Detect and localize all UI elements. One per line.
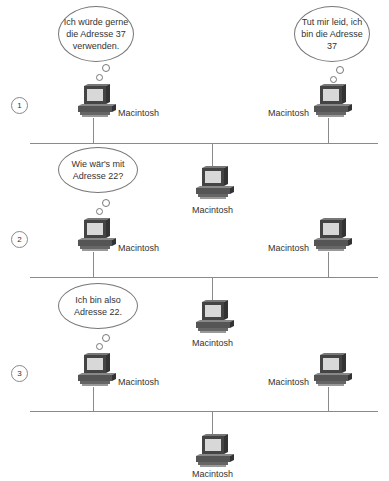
macintosh-computer-icon	[194, 166, 234, 202]
macintosh-computer-icon	[194, 434, 234, 470]
node-label: Macintosh	[118, 243, 159, 253]
thought-dot	[102, 334, 110, 342]
network-drop	[93, 118, 94, 143]
network-drop	[212, 411, 213, 436]
bubble-text: Tut mir leid, ich bin die Adresse 37	[295, 16, 369, 52]
macintosh-computer-icon	[76, 84, 116, 120]
network-drop	[328, 387, 329, 411]
macintosh-computer-icon	[312, 218, 352, 254]
macintosh-computer-icon	[76, 218, 116, 254]
network-drop	[93, 387, 94, 411]
node-label: Macintosh	[268, 108, 309, 118]
network-drop	[212, 143, 213, 168]
node-label: Macintosh	[268, 377, 309, 387]
node-label: Macintosh	[192, 205, 233, 215]
bubble-text: Ich würde gerne die Adresse 37 verwenden…	[59, 16, 133, 52]
thought-dot	[96, 343, 103, 350]
bubble-text: Ich bin also Adresse 22.	[59, 294, 137, 318]
macintosh-computer-icon	[76, 353, 116, 389]
macintosh-computer-icon	[194, 300, 234, 336]
thought-bubble-step2: Wie wär's mit Adresse 22?	[58, 147, 138, 193]
network-bus-1	[30, 143, 378, 144]
node-label: Macintosh	[118, 108, 159, 118]
network-bus-2	[30, 277, 378, 278]
thought-bubble-step3: Ich bin also Adresse 22.	[58, 283, 138, 329]
node-label: Macintosh	[192, 338, 233, 348]
thought-bubble-step1-right: Tut mir leid, ich bin die Adresse 37	[294, 6, 370, 62]
network-drop	[212, 277, 213, 302]
network-bus-3	[30, 411, 378, 412]
thought-dot	[102, 199, 110, 207]
thought-dot	[336, 66, 344, 74]
thought-dot	[102, 64, 110, 72]
network-drop	[328, 252, 329, 277]
thought-dot	[330, 76, 337, 83]
thought-bubble-step1-left: Ich würde gerne die Adresse 37 verwenden…	[58, 6, 134, 62]
node-label: Macintosh	[192, 469, 233, 479]
macintosh-computer-icon	[312, 353, 352, 389]
node-label: Macintosh	[268, 243, 309, 253]
step-badge-1: 1	[11, 97, 28, 114]
thought-dot	[96, 208, 103, 215]
node-label: Macintosh	[118, 377, 159, 387]
thought-dot	[96, 74, 103, 81]
bubble-text: Wie wär's mit Adresse 22?	[59, 158, 137, 182]
step-badge-2: 2	[11, 231, 28, 248]
network-drop	[328, 118, 329, 143]
macintosh-computer-icon	[312, 84, 352, 120]
step-badge-3: 3	[11, 365, 28, 382]
network-drop	[93, 252, 94, 277]
